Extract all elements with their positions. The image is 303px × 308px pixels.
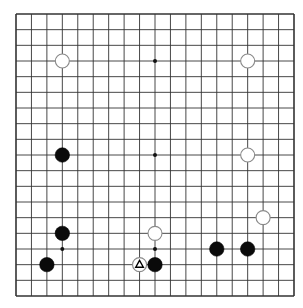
white-stone[interactable]: [241, 54, 255, 68]
white-stone[interactable]: [133, 258, 147, 272]
black-stone[interactable]: [210, 242, 224, 256]
black-stone[interactable]: [40, 257, 54, 271]
star-point: [153, 153, 157, 157]
black-stone[interactable]: [240, 242, 254, 256]
white-stone[interactable]: [256, 211, 270, 225]
star-point: [153, 59, 157, 63]
white-stone[interactable]: [55, 54, 69, 68]
star-point: [60, 247, 64, 251]
black-stone[interactable]: [148, 257, 162, 271]
white-stone[interactable]: [241, 148, 255, 162]
black-stone[interactable]: [55, 148, 69, 162]
black-stone[interactable]: [55, 226, 69, 240]
star-point: [153, 247, 157, 251]
white-stone[interactable]: [148, 226, 162, 240]
go-board: [0, 0, 303, 308]
